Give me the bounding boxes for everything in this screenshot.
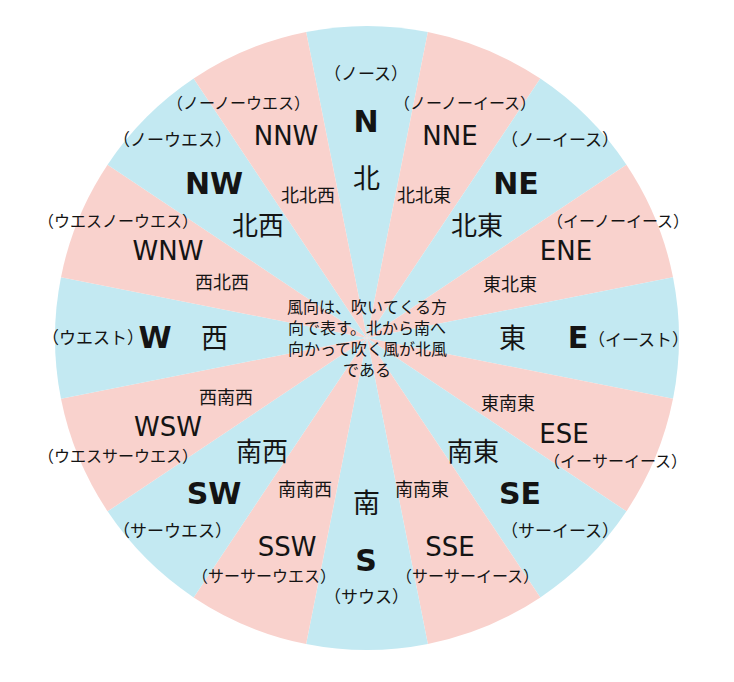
direction-kanji-ne: 北東 <box>451 213 503 239</box>
direction-abbr-ene: ENE <box>540 238 592 264</box>
direction-kana-sw: （サーウエス） <box>113 523 232 540</box>
direction-kana-se: （サーイース） <box>501 523 619 540</box>
direction-abbr-wsw: WSW <box>134 414 202 440</box>
direction-kana-nne: （ノーノーイース） <box>394 96 536 112</box>
direction-kana-wnw: （ウエスノーウエス） <box>38 214 198 230</box>
direction-kana-wsw: （ウエスサーウエス） <box>38 449 198 465</box>
center-note: 風向は、吹いてくる方向で表す。北から南へ向かって吹く風が北風である <box>287 297 447 381</box>
direction-abbr-ese: ESE <box>539 421 588 447</box>
direction-kanji-nw: 北西 <box>232 213 284 239</box>
direction-kanji-nnw: 北北西 <box>281 187 335 205</box>
direction-kanji-ene: 東北東 <box>483 276 537 294</box>
direction-kana-e: （イースト） <box>588 332 689 349</box>
direction-abbr-nne: NNE <box>422 123 477 149</box>
direction-abbr-se: SE <box>499 479 541 509</box>
direction-kana-ene: （イーノーイース） <box>547 214 689 230</box>
direction-kana-nnw: （ノーノーウエス） <box>167 96 310 112</box>
direction-abbr-n: N <box>353 107 378 137</box>
direction-kanji-sw: 南西 <box>236 439 288 465</box>
direction-kanji-s: 南 <box>353 490 380 517</box>
direction-kanji-sse: 南南東 <box>395 481 449 499</box>
direction-abbr-nnw: NNW <box>254 123 319 149</box>
direction-kana-ese: （イーサーイース） <box>544 454 687 470</box>
direction-kanji-nne: 北北東 <box>397 187 451 205</box>
direction-kana-ssw: （サーサーウエス） <box>192 569 336 585</box>
direction-abbr-ne: NE <box>493 169 539 199</box>
direction-kanji-se: 南東 <box>447 439 499 465</box>
direction-kanji-e: 東 <box>499 325 526 352</box>
direction-abbr-wnw: WNW <box>133 238 204 264</box>
direction-abbr-sse: SSE <box>425 534 474 560</box>
direction-abbr-sw: SW <box>187 479 242 509</box>
direction-kanji-wsw: 西南西 <box>199 389 253 407</box>
direction-kanji-w: 西 <box>201 325 228 352</box>
direction-kana-n: （ノース） <box>324 66 408 83</box>
direction-kana-nw: （ノーウエス） <box>113 132 232 149</box>
direction-kanji-ese: 東南東 <box>481 395 535 413</box>
direction-abbr-nw: NW <box>185 169 243 199</box>
direction-kana-w: （ウエスト） <box>42 330 144 347</box>
direction-kana-sse: （サーサーイース） <box>396 569 539 585</box>
compass-rose-figure: N北（ノース）NNE北北東（ノーノーイース）NE北東（ノーイース）ENE東北東（… <box>0 0 734 682</box>
direction-kanji-wnw: 西北西 <box>195 274 249 292</box>
direction-kana-s: （サウス） <box>324 589 409 606</box>
direction-abbr-s: S <box>355 546 377 576</box>
direction-kana-ne: （ノーイース） <box>501 132 619 149</box>
direction-kanji-ssw: 南南西 <box>278 481 332 499</box>
direction-abbr-ssw: SSW <box>258 534 317 560</box>
direction-kanji-n: 北 <box>353 165 380 192</box>
direction-abbr-e: E <box>568 323 589 353</box>
